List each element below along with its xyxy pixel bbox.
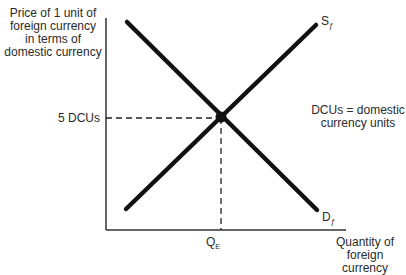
equilibrium-price-label: 5 DCUs — [24, 112, 100, 125]
y-axis-label: Price of 1 unit of foreign currency in t… — [0, 7, 106, 59]
qe-main: Q — [206, 235, 215, 249]
y-axis-label-line: domestic currency — [0, 46, 106, 59]
supply-curve-label: Sƒ — [321, 14, 333, 30]
dcu-definition-note: DCUs = domestic currency units — [310, 104, 406, 130]
equilibrium-point — [216, 112, 227, 123]
supply-subscript: ƒ — [329, 21, 333, 30]
supply-main: S — [321, 14, 329, 28]
equilibrium-quantity-label: QE — [206, 236, 220, 253]
demand-subscript: ƒ — [331, 217, 335, 226]
x-axis-label-line: foreign currency — [324, 249, 406, 275]
qe-subscript: E — [215, 243, 220, 250]
note-line: currency units — [310, 117, 406, 130]
demand-main: D — [322, 210, 331, 224]
demand-curve-label: Dƒ — [322, 210, 335, 226]
x-axis-label: Quantity of foreign currency — [324, 236, 406, 275]
